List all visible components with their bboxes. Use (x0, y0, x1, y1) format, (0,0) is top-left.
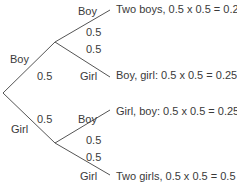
second-boy-girl-label: Girl (80, 70, 97, 82)
second-girl-girl-label: Girl (80, 170, 97, 182)
second-boy-boy-label: Boy (78, 5, 97, 17)
first-girl-label: Girl (11, 123, 28, 135)
branch-root-to-boy (3, 42, 55, 93)
second-girl-girl-probability: 0.5 (86, 151, 101, 163)
first-boy-probability: 0.5 (37, 70, 52, 82)
probability-tree (0, 0, 237, 186)
outcome-boy-girl: Boy, girl: 0.5 x 0.5 = 0.25 (116, 69, 237, 81)
second-boy-boy-probability: 0.5 (86, 26, 101, 38)
second-girl-boy-label: Boy (78, 113, 97, 125)
outcome-girl-boy: Girl, boy: 0.5 x 0.5 = 0.25 (116, 105, 237, 117)
second-boy-girl-probability: 0.5 (86, 43, 101, 55)
second-girl-boy-probability: 0.5 (86, 134, 101, 146)
first-girl-probability: 0.5 (37, 113, 52, 125)
outcome-two-girls: Two girls, 0.5 x 0.5 = 0.5 (116, 170, 236, 182)
first-boy-label: Boy (10, 53, 29, 65)
outcome-two-boys: Two boys, 0.5 x 0.5 = 0.25 (116, 3, 237, 15)
